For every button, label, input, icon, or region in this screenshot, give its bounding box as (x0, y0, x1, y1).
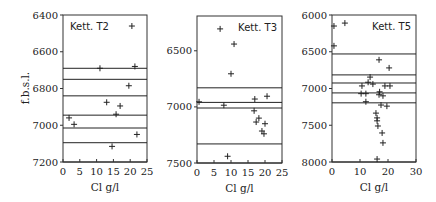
x-tick-label: 5 (77, 166, 83, 177)
data-point (97, 65, 103, 71)
x-tick-label: 15 (242, 167, 255, 178)
y-tick-label: 6800 (33, 83, 58, 94)
x-tick-label: 10 (225, 167, 238, 178)
data-point (256, 115, 262, 121)
data-point (126, 83, 132, 89)
data-point (253, 119, 259, 125)
panel-kett-t3: 0510152025650070007500Cl g/lKett. T3 (167, 16, 289, 194)
panel-title: Kett. T2 (70, 21, 109, 32)
data-point (363, 91, 369, 97)
x-tick-label: 0 (60, 166, 66, 177)
x-tick-label: 25 (276, 167, 289, 178)
panel-title: Kett. T5 (372, 21, 411, 32)
panel-title: Kett. T3 (238, 22, 277, 33)
x-tick-label: 5 (211, 167, 217, 178)
x-tick-label: 20 (259, 167, 272, 178)
data-point (373, 110, 379, 116)
y-tick-label: 8000 (302, 157, 327, 168)
data-point (251, 108, 257, 114)
data-point (359, 83, 365, 89)
data-point (374, 118, 380, 124)
x-tick-label: 0 (329, 166, 335, 177)
x-tick-label: 30 (410, 166, 423, 177)
data-point (375, 123, 381, 129)
plot-frame (197, 16, 282, 163)
data-point (109, 143, 115, 149)
data-point (225, 153, 231, 159)
y-tick-label: 6400 (33, 10, 58, 21)
data-point (113, 111, 119, 117)
y-tick-label: 6600 (33, 46, 58, 57)
x-tick-label: 25 (141, 166, 154, 177)
data-point (228, 71, 234, 77)
plot-frame (332, 15, 416, 162)
data-point (264, 93, 270, 99)
y-tick-label: 7000 (167, 101, 192, 112)
x-axis-label: Cl g/l (225, 182, 254, 194)
data-point (380, 140, 386, 146)
y-tick-label: 7200 (33, 157, 58, 168)
data-point (117, 103, 123, 109)
data-point (379, 130, 385, 136)
data-point (387, 83, 393, 89)
data-point (374, 156, 380, 162)
data-point (104, 99, 110, 105)
y-tick-label: 6500 (167, 45, 192, 56)
x-axis-label: Cl g/l (91, 181, 120, 193)
data-point (386, 65, 392, 71)
x-axis-label: Cl g/l (360, 181, 389, 193)
data-point (71, 121, 77, 127)
data-point (377, 89, 383, 95)
y-tick-label: 7000 (302, 83, 327, 94)
data-point (129, 23, 135, 29)
x-tick-label: 20 (124, 166, 137, 177)
panel-kett-t5: 010203060006500700075008000Cl g/lKett. T… (302, 10, 423, 194)
chloride-depth-figure: f.b.s.l. 051015202564006600680070007200C… (0, 0, 436, 202)
y-tick-label: 7500 (167, 158, 192, 169)
data-point (380, 93, 386, 99)
data-point (342, 20, 348, 26)
data-point (134, 131, 140, 137)
x-tick-label: 10 (90, 166, 103, 177)
y-tick-label: 7000 (33, 120, 58, 131)
y-tick-label: 6500 (302, 46, 327, 57)
y-axis-label: f.b.s.l. (19, 72, 31, 104)
data-point (231, 41, 237, 47)
y-tick-label: 7500 (302, 120, 327, 131)
data-point (376, 57, 382, 63)
data-point (363, 99, 369, 105)
panel-kett-t2: 051015202564006600680070007200Cl g/lKett… (33, 10, 154, 194)
x-tick-label: 20 (382, 166, 395, 177)
data-point (252, 96, 258, 102)
plot-frame (63, 15, 147, 162)
data-point (66, 115, 72, 121)
data-point (221, 102, 227, 108)
x-tick-label: 15 (107, 166, 120, 177)
data-point (262, 121, 268, 127)
y-tick-label: 6000 (302, 10, 327, 21)
x-tick-label: 10 (354, 166, 367, 177)
data-point (384, 103, 390, 109)
x-tick-label: 0 (194, 167, 200, 178)
data-point (217, 26, 223, 32)
